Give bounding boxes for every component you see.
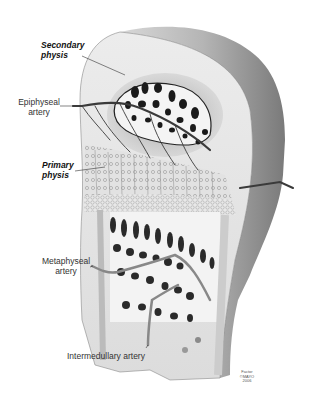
label-metaphyseal-artery-line1: Metaphyseal: [38, 256, 94, 266]
bone-illustration: [0, 0, 309, 401]
label-secondary-physis: Secondary physis: [41, 40, 84, 60]
illustration-credit: Factor ©MAYO 2006: [237, 370, 257, 384]
credit-line3: 2006: [237, 379, 257, 384]
label-epiphyseal-artery-line1: Epiphyseal: [15, 97, 63, 107]
label-primary-physis: Primary physis: [42, 160, 74, 180]
label-epiphyseal-artery: Epiphyseal artery: [15, 97, 63, 117]
label-primary-physis-line1: Primary: [42, 160, 74, 170]
figure: Secondary physis Epiphyseal artery Prima…: [0, 0, 309, 401]
label-intermedullary-artery: Intermedullary artery: [67, 351, 145, 361]
label-metaphyseal-artery-line2: artery: [38, 266, 94, 276]
label-secondary-physis-line1: Secondary: [41, 40, 84, 50]
label-primary-physis-line2: physis: [42, 170, 74, 180]
cortex-left: [100, 210, 103, 360]
label-epiphyseal-artery-line2: artery: [15, 107, 63, 117]
label-metaphyseal-artery: Metaphyseal artery: [38, 256, 94, 276]
label-secondary-physis-line2: physis: [41, 50, 84, 60]
